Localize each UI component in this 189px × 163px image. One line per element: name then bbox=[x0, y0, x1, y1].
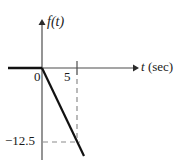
function-ramp-segment bbox=[42, 68, 84, 156]
f-axis-label: f(t) bbox=[47, 15, 64, 29]
origin-tick-label: 0 bbox=[34, 70, 41, 83]
t-axis-label: t (sec) bbox=[141, 60, 173, 73]
t-axis-arrowhead bbox=[133, 65, 139, 72]
x-tick-label-5: 5 bbox=[64, 70, 71, 83]
figure-container: f(t) t (sec) 0 5 −12.5 bbox=[0, 0, 189, 163]
y-value-label-neg-12-5: −12.5 bbox=[5, 134, 35, 147]
t-axis-label-unit: (sec) bbox=[148, 59, 173, 74]
f-axis-arrowhead bbox=[39, 19, 46, 25]
t-axis-label-symbol: t bbox=[141, 59, 145, 74]
